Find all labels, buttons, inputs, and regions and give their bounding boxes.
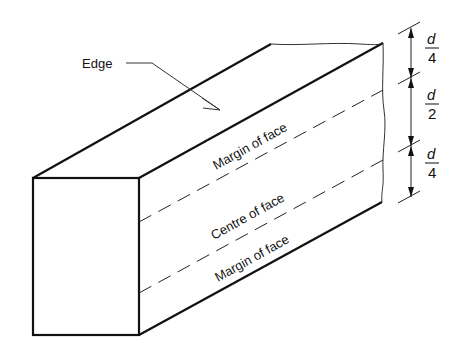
fraction-d2: d 2 — [425, 86, 439, 122]
arris-edge — [139, 43, 383, 178]
tick-4 — [398, 191, 420, 203]
break-line-right — [382, 43, 385, 202]
zone-line-lower — [139, 160, 383, 293]
centre-label: Centre of face — [208, 190, 287, 243]
edge-label: Edge — [82, 56, 112, 71]
end-face — [33, 178, 139, 335]
break-line-top — [271, 43, 383, 45]
fraction-d4-top: d 4 — [425, 30, 439, 66]
timber-diagram: Edge Margin of face Centre of face Margi… — [0, 0, 470, 357]
tick-1 — [398, 22, 420, 34]
margin-top-label: Margin of face — [210, 120, 289, 173]
fraction-d4-bottom: d 4 — [425, 145, 439, 181]
fraction-denominator: 4 — [428, 49, 436, 66]
fraction-denominator: 4 — [428, 164, 436, 181]
fraction-numerator: d — [427, 145, 436, 162]
edge-leader — [126, 63, 220, 110]
fraction-numerator: d — [427, 86, 436, 103]
fraction-denominator: 2 — [428, 105, 436, 122]
bottom-edge — [139, 202, 382, 335]
fraction-numerator: d — [427, 30, 436, 47]
tick-3 — [398, 140, 420, 152]
edge-arrowhead-icon — [202, 98, 220, 110]
tick-2 — [398, 72, 420, 84]
